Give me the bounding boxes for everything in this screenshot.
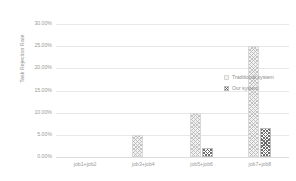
- legend-entry-traditional[interactable]: Traditional system: [224, 72, 296, 83]
- gridline: 0.00%: [56, 157, 289, 158]
- y-axis-tick-label: 10.00%: [34, 110, 52, 115]
- legend-entry-ours[interactable]: Our system: [224, 83, 296, 94]
- bar-traditional[interactable]: [190, 113, 201, 157]
- x-axis-tick-label: job3+job4: [114, 162, 172, 167]
- bar-group-bars: [56, 24, 114, 157]
- legend-swatch-traditional-icon: [224, 75, 229, 80]
- bar-ours[interactable]: [260, 128, 271, 157]
- y-axis-tick-label: 20.00%: [34, 66, 52, 71]
- x-axis-tick-label: job5+job6: [173, 162, 231, 167]
- bar-group-bars: [173, 24, 231, 157]
- bar-group: job5+job6: [173, 24, 231, 157]
- bar-chart: Task Rejection Rate 0.00%5.00%10.00%15.0…: [0, 0, 296, 181]
- y-axis-tick-label: 30.00%: [34, 21, 52, 26]
- bar-group-bars: [114, 24, 172, 157]
- legend-label-traditional: Traditional system: [232, 75, 274, 80]
- bar-traditional[interactable]: [132, 135, 143, 157]
- bar-ours[interactable]: [202, 148, 213, 157]
- y-axis-tick-label: 15.00%: [34, 88, 52, 93]
- legend-swatch-ours-icon: [224, 86, 229, 91]
- y-axis-title: Task Rejection Rate: [20, 4, 25, 114]
- x-axis-tick-label: job1+job2: [56, 162, 114, 167]
- bar-group: job1+job2: [56, 24, 114, 157]
- bar-group: job3+job4: [114, 24, 172, 157]
- y-axis-tick-label: 25.00%: [34, 44, 52, 49]
- bar-traditional[interactable]: [248, 46, 259, 157]
- x-axis-tick-label: job7+job8: [231, 162, 289, 167]
- y-axis-tick-label: 5.00%: [37, 132, 52, 137]
- legend: Traditional system Our system: [224, 72, 296, 94]
- y-axis-tick-label: 0.00%: [37, 154, 52, 159]
- legend-label-ours: Our system: [232, 86, 259, 91]
